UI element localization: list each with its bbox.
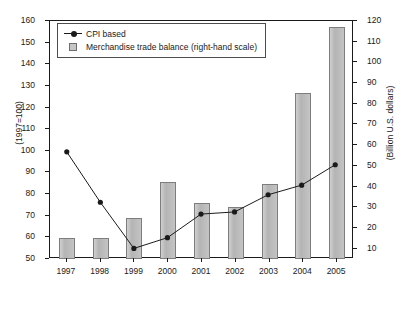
right-axis-title: (Billion U.S. dollars) [385,63,395,183]
cpi-marker-2001 [198,212,203,217]
cpi-marker-1998 [98,200,103,205]
cpi-marker-2000 [165,235,170,240]
chart-legend: CPI based Merchandise trade balance (rig… [57,23,266,58]
line-marker-key-icon [64,29,82,39]
cpi-marker-2005 [333,162,338,167]
cpi-marker-2002 [232,209,237,214]
cpi-marker-2004 [299,183,304,188]
legend-label: Merchandise trade balance (right-hand sc… [86,42,257,52]
cpi-line-path [67,152,335,249]
cpi-marker-2003 [266,192,271,197]
legend-item-trade-balance: Merchandise trade balance (right-hand sc… [64,41,257,53]
cpi-marker-1999 [131,246,136,251]
legend-item-cpi: CPI based [64,28,257,40]
chart-figure: (1997=100) (Billion U.S. dollars) 506070… [0,0,407,325]
cpi-marker-1997 [64,149,69,154]
legend-label: CPI based [86,29,126,39]
square-swatch-key-icon [64,42,82,52]
